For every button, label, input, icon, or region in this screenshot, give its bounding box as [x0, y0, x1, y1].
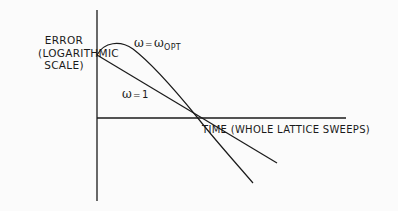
equals-sign: = [145, 39, 153, 49]
omega-symbol: ω [154, 36, 164, 50]
curve-omega-one [97, 55, 277, 163]
one-value: 1 [142, 89, 149, 100]
omega-symbol: ω [134, 36, 144, 50]
convergence-diagram [0, 0, 398, 211]
y-axis-label-line-1: ERROR [38, 34, 90, 47]
omega-opt-label: ω=ωOPT [134, 37, 181, 52]
x-axis-label: TIME (WHOLE LATTICE SWEEPS) [202, 124, 370, 137]
y-axis-label-line-3: SCALE) [38, 59, 90, 72]
y-axis-label: ERROR (LOGARITHMIC SCALE) [38, 34, 90, 72]
omega-one-label: ω=1 [122, 88, 149, 102]
opt-subscript: OPT [164, 43, 181, 52]
omega-symbol: ω [122, 87, 132, 101]
y-axis-label-line-2: (LOGARITHMIC [38, 47, 90, 60]
equals-sign: = [133, 90, 141, 100]
curve-omega-opt [97, 43, 253, 183]
